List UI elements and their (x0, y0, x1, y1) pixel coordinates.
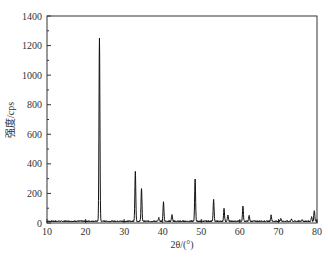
y-tick-label: 200 (27, 188, 42, 199)
x-tick-label: 40 (158, 226, 168, 237)
y-tick-label: 1200 (22, 40, 42, 51)
x-axis-label: 2θ/(°) (170, 239, 193, 251)
xrd-chart: 0200400600800100012001400 10203040506070… (0, 0, 328, 258)
x-tick-label: 60 (235, 226, 245, 237)
x-tick-label: 10 (42, 226, 52, 237)
y-tick-label: 1400 (22, 11, 42, 22)
xrd-pattern-line (47, 38, 317, 222)
y-axis-label: 强度/cps (4, 102, 16, 138)
y-tick-label: 400 (27, 158, 42, 169)
y-tick-label: 600 (27, 129, 42, 140)
x-tick-label: 80 (312, 226, 322, 237)
y-tick-label: 1000 (22, 70, 42, 81)
plot-frame (47, 16, 317, 223)
x-tick-label: 30 (119, 226, 129, 237)
axes (47, 16, 317, 223)
x-tick-label: 20 (81, 226, 91, 237)
x-tick-label: 70 (273, 226, 283, 237)
x-tick-label: 50 (196, 226, 206, 237)
y-tick-label: 800 (27, 99, 42, 110)
